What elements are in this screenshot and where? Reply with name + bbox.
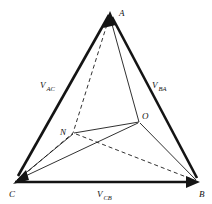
edge-o-c [17, 123, 138, 180]
interior-edge-group [17, 17, 196, 180]
edge-vector-ac [18, 15, 109, 176]
outer-edge-group [15, 15, 197, 182]
vertex-label-n: N [59, 127, 67, 137]
arrowhead-group [13, 11, 200, 188]
vertex-label-c: C [9, 189, 16, 199]
vector-triangle-diagram: A B C N O V AC V BA V CB [0, 0, 212, 204]
diagram-canvas: A B C N O V AC V BA V CB [0, 0, 212, 204]
vertex-label-b: B [199, 189, 205, 199]
vector-label-ba: V BA [152, 80, 166, 92]
vector-label-ba-subscript: BA [159, 85, 167, 92]
edge-o-b [140, 123, 196, 180]
edge-a-o [110, 17, 139, 122]
edge-a-n-c-dashed [18, 18, 109, 180]
dashed-edge-group [18, 18, 194, 180]
vector-label-cb-subscript: CB [104, 194, 112, 201]
edge-vector-ba [112, 17, 197, 178]
arrowhead-at-b [186, 176, 200, 188]
vertex-label-o: O [142, 111, 149, 121]
vector-label-ac-subscript: AC [46, 85, 56, 92]
vector-label-ac: V AC [40, 80, 55, 92]
vertex-label-a: A [118, 8, 125, 18]
vector-label-cb: V CB [97, 189, 112, 201]
